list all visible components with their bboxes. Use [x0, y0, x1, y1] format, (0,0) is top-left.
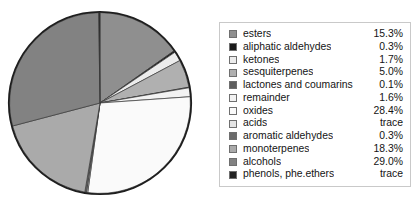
- legend-label: alcohols: [243, 156, 281, 169]
- legend-swatch-icon: [229, 81, 237, 89]
- legend-swatch-icon: [229, 158, 237, 166]
- legend-label: esters: [243, 28, 271, 41]
- legend-label: aliphatic aldehydes: [243, 41, 331, 54]
- pie-chart-plot-area: [7, 9, 193, 197]
- legend-value: 5.0%: [375, 66, 403, 79]
- legend-swatch-icon: [229, 120, 237, 128]
- legend-row: aliphatic aldehydes0.3%: [229, 41, 403, 54]
- legend-swatch-icon: [229, 145, 237, 153]
- legend-swatch-icon: [229, 30, 237, 38]
- legend-row: oxides28.4%: [229, 105, 403, 118]
- legend-row: esters15.3%: [229, 28, 403, 41]
- legend-label: aromatic aldehydes: [243, 130, 333, 143]
- legend-label: lactones and coumarins: [243, 79, 353, 92]
- legend-value: 1.6%: [375, 92, 403, 105]
- legend-swatch-icon: [229, 69, 237, 77]
- legend-value: trace: [376, 117, 403, 130]
- legend-swatch-icon: [229, 132, 237, 140]
- legend-row: acidstrace: [229, 117, 403, 130]
- pie-slice-group: [10, 13, 191, 194]
- pie-chart-figure: esters15.3%aliphatic aldehydes0.3%ketone…: [0, 0, 416, 211]
- legend-swatch-icon: [229, 43, 237, 51]
- legend-value: 0.3%: [375, 41, 403, 54]
- legend-value: 29.0%: [370, 156, 403, 169]
- legend-row: sesquiterpenes5.0%: [229, 66, 403, 79]
- legend-label: oxides: [243, 105, 273, 118]
- legend-row: monoterpenes18.3%: [229, 143, 403, 156]
- legend-label: phenols, phe.ethers: [243, 168, 334, 181]
- legend-row: alcohols29.0%: [229, 156, 403, 169]
- legend-label: acids: [243, 117, 267, 130]
- legend-label: remainder: [243, 92, 290, 105]
- legend-value: 0.3%: [375, 130, 403, 143]
- legend-value: 18.3%: [370, 143, 403, 156]
- legend-label: ketones: [243, 54, 279, 67]
- legend-value: trace: [376, 168, 403, 181]
- legend-row: aromatic aldehydes0.3%: [229, 130, 403, 143]
- legend-swatch-icon: [229, 107, 237, 115]
- legend-label: monoterpenes: [243, 143, 309, 156]
- legend-box: esters15.3%aliphatic aldehydes0.3%ketone…: [219, 22, 411, 187]
- legend-label: sesquiterpenes: [243, 66, 313, 79]
- legend-value: 15.3%: [370, 28, 403, 41]
- legend-value: 0.1%: [375, 79, 403, 92]
- legend-swatch-icon: [229, 171, 237, 179]
- legend-row: ketones1.7%: [229, 54, 403, 67]
- legend-row: phenols, phe.etherstrace: [229, 168, 403, 181]
- pie-chart-svg: [7, 9, 193, 197]
- legend-row: lactones and coumarins0.1%: [229, 79, 403, 92]
- pie-slice: [88, 97, 191, 194]
- legend-value: 1.7%: [375, 54, 403, 67]
- legend-row: remainder1.6%: [229, 92, 403, 105]
- legend-swatch-icon: [229, 56, 237, 64]
- legend-value: 28.4%: [370, 105, 403, 118]
- legend-swatch-icon: [229, 94, 237, 102]
- legend-list: esters15.3%aliphatic aldehydes0.3%ketone…: [229, 28, 403, 181]
